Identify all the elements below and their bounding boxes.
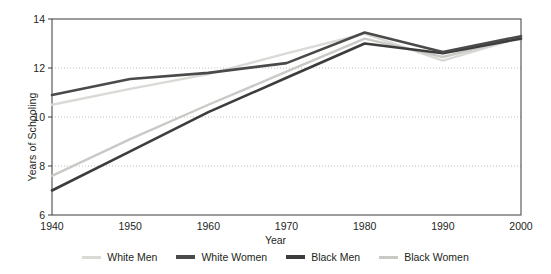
legend-label: Black Women	[404, 251, 469, 263]
line-chart: 68101214 1940195019601970198019902000 Ye…	[0, 0, 551, 274]
svg-text:1940: 1940	[40, 220, 64, 232]
svg-text:1970: 1970	[275, 220, 299, 232]
svg-text:14: 14	[33, 13, 45, 25]
legend-swatch-icon	[379, 256, 398, 259]
legend-label: White Men	[107, 251, 157, 263]
chart-legend: White MenWhite WomenBlack MenBlack Women	[0, 251, 551, 263]
svg-text:1980: 1980	[353, 220, 377, 232]
svg-text:6: 6	[39, 209, 45, 221]
svg-text:2000: 2000	[509, 220, 533, 232]
legend-swatch-icon	[286, 255, 305, 258]
x-axis-title: Year	[0, 234, 551, 246]
legend-item-white-men[interactable]: White Men	[82, 251, 157, 263]
svg-text:1990: 1990	[431, 220, 455, 232]
legend-item-black-women[interactable]: Black Women	[379, 251, 469, 263]
svg-text:1960: 1960	[197, 220, 221, 232]
series-lines	[52, 32, 521, 190]
gridlines	[52, 68, 521, 166]
legend-item-white-women[interactable]: White Women	[176, 251, 267, 263]
legend-item-black-men[interactable]: Black Men	[286, 251, 360, 263]
plot-canvas: 68101214 1940195019601970198019902000	[0, 0, 551, 240]
legend-label: White Women	[201, 251, 267, 263]
y-axis-title: Years of Schooling	[26, 67, 38, 207]
svg-text:1950: 1950	[118, 220, 142, 232]
legend-swatch-icon	[176, 255, 195, 258]
legend-swatch-icon	[82, 256, 101, 259]
x-axis-tick-labels: 1940195019601970198019902000	[40, 220, 533, 232]
legend-label: Black Men	[311, 251, 360, 263]
svg-text:8: 8	[39, 160, 45, 172]
